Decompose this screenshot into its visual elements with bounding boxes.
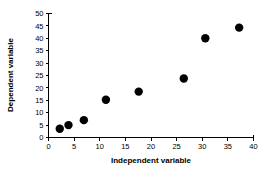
data-point-marker	[80, 116, 88, 124]
x-tick-label: 10	[96, 142, 104, 151]
data-point-marker	[201, 34, 209, 42]
data-point-marker	[56, 125, 64, 133]
chart-canvas: 05101520253035404550 0510152025303540 In…	[0, 0, 269, 171]
y-tick-label: 40	[35, 34, 43, 43]
y-tick-label: 20	[35, 84, 43, 93]
x-tick-label: 15	[121, 142, 129, 151]
data-point-marker	[235, 23, 243, 31]
x-tick-label: 30	[198, 142, 206, 151]
scatter-plot-figure: 05101520253035404550 0510152025303540 In…	[0, 0, 269, 171]
data-point-marker	[135, 87, 143, 95]
y-tick-label: 5	[39, 121, 43, 130]
y-tick-label: 35	[35, 46, 43, 55]
y-tick-label: 45	[35, 22, 43, 31]
x-tick-label: 40	[249, 142, 257, 151]
x-tick-label: 25	[172, 142, 180, 151]
y-tick-label: 30	[35, 59, 43, 68]
data-point-marker	[64, 121, 72, 129]
x-tick-label: 35	[224, 142, 232, 151]
y-tick-label: 15	[35, 96, 43, 105]
x-tick-label: 0	[46, 142, 50, 151]
y-axis-title: Dependent variable	[6, 38, 15, 112]
y-tick-label: 10	[35, 108, 43, 117]
data-point-marker	[180, 74, 188, 82]
data-point-marker	[102, 96, 110, 104]
x-tick-label: 20	[147, 142, 155, 151]
x-tick-label: 5	[72, 142, 76, 151]
x-axis-title: Independent variable	[111, 156, 192, 165]
y-tick-label: 25	[35, 71, 43, 80]
y-tick-label: 0	[39, 133, 43, 142]
y-tick-label: 50	[35, 9, 43, 18]
